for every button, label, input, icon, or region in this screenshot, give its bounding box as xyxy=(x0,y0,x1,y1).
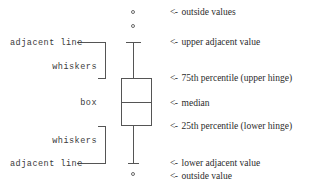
arrow-left-icon: <- xyxy=(170,7,178,17)
arrow-left-icon: <- xyxy=(170,98,178,108)
annotation-25th-percentile: <-25th percentile (lower hinge) xyxy=(170,121,292,132)
label-whiskers-lower: whiskers xyxy=(10,136,97,146)
annotation-upper-adjacent-value-text: upper adjacent value xyxy=(182,37,261,47)
outside-value-marker-top-2 xyxy=(131,24,135,28)
outside-value-marker-top-1 xyxy=(131,10,135,14)
arrow-left-icon: <- xyxy=(170,121,178,131)
upper-hinge-bracket-tick xyxy=(98,78,106,79)
upper-whisker-bracket-spine xyxy=(105,42,106,79)
annotation-outside-values: <-outside values xyxy=(170,7,236,18)
lower-whisker-stem xyxy=(133,126,134,163)
annotation-median: <-median xyxy=(170,98,210,109)
arrow-left-icon: <- xyxy=(170,37,178,47)
median-line xyxy=(121,102,152,103)
annotation-25th-percentile-text: 25th percentile (lower hinge) xyxy=(182,121,293,131)
boxplot-anatomy-diagram: adjacent line whiskers box whiskers adja… xyxy=(0,0,318,186)
annotation-outside-value-text: outside value xyxy=(182,171,232,181)
annotation-75th-percentile-text: 75th percentile (upper hinge) xyxy=(182,73,293,83)
annotation-lower-adjacent-value: <-lower adjacent value xyxy=(170,158,260,169)
label-adjacent-line-upper: adjacent line xyxy=(10,38,72,48)
annotation-lower-adjacent-value-text: lower adjacent value xyxy=(182,158,261,168)
annotation-outside-values-text: outside values xyxy=(182,7,236,17)
annotation-outside-value: <-outside value xyxy=(170,171,232,182)
arrow-left-icon: <- xyxy=(170,73,178,83)
lower-adjacent-cap xyxy=(128,163,139,164)
arrow-left-icon: <- xyxy=(170,171,178,181)
arrow-left-icon: <- xyxy=(170,158,178,168)
annotation-upper-adjacent-value: <-upper adjacent value xyxy=(170,37,260,48)
lower-whisker-bracket-spine xyxy=(105,126,106,164)
upper-whisker-stem xyxy=(133,42,134,78)
label-box: box xyxy=(10,98,97,108)
label-whiskers-upper: whiskers xyxy=(10,62,97,72)
outside-value-marker-bottom-1 xyxy=(131,172,135,176)
annotation-75th-percentile: <-75th percentile (upper hinge) xyxy=(170,73,292,84)
annotation-median-text: median xyxy=(182,98,210,108)
label-adjacent-line-lower: adjacent line xyxy=(10,159,72,169)
